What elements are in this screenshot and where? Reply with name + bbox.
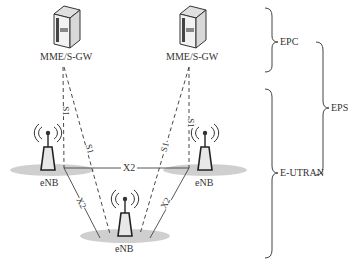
x2-label-top: X2 bbox=[121, 163, 137, 173]
mme-label-right: MME/S-GW bbox=[166, 52, 218, 62]
s1-label-left-vertical: S1 bbox=[61, 106, 71, 116]
s1-label-right-vertical: S1 bbox=[186, 118, 196, 128]
diagram-canvas bbox=[0, 0, 357, 267]
server-icon-right bbox=[180, 6, 206, 48]
enb-label-bottom: eNB bbox=[115, 244, 133, 254]
epc-group-label: EPC bbox=[280, 37, 298, 47]
enb-label-left: eNB bbox=[40, 178, 58, 188]
s1-link-left-vertical bbox=[63, 67, 64, 168]
eps-brace bbox=[316, 42, 329, 175]
enb-tower-icon-right bbox=[191, 124, 218, 170]
eps-group-label: EPS bbox=[331, 103, 348, 113]
enb-tower-icon-left bbox=[34, 124, 61, 170]
enb-tower-icon-bottom bbox=[111, 190, 138, 236]
e-utran-brace bbox=[265, 89, 278, 258]
e-utran-group-label: E-UTRAN bbox=[280, 168, 324, 178]
enb-label-right: eNB bbox=[195, 178, 213, 188]
epc-brace bbox=[265, 8, 278, 72]
server-icon-left bbox=[54, 6, 80, 48]
mme-label-left: MME/S-GW bbox=[40, 52, 92, 62]
